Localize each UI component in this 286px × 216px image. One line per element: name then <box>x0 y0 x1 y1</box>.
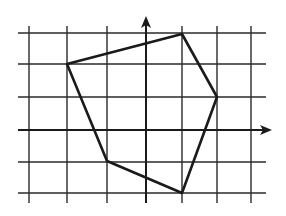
coordinate-diagram <box>0 0 286 216</box>
grid-svg <box>0 0 286 216</box>
pentagon-shape <box>67 34 217 193</box>
